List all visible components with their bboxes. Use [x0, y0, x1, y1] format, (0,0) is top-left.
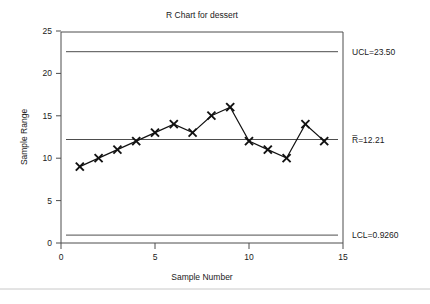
x-tick-label-5: 5: [153, 252, 158, 262]
data-point-9: [226, 103, 234, 111]
x-tick-label-15: 15: [338, 252, 348, 262]
y-axis-ticks: [56, 31, 61, 243]
data-point-4: [132, 137, 140, 145]
lcl-label: LCL=0.9260: [352, 230, 399, 240]
data-point-12: [283, 154, 291, 162]
r-chart-figure: R Chart for dessert 0 5 10 15 20 25: [0, 0, 430, 304]
x-axis-label: Sample Number: [171, 272, 233, 282]
y-axis-label: Sample Range: [19, 109, 29, 166]
plot-frame: [61, 32, 343, 243]
chart-canvas: R Chart for dessert 0 5 10 15 20 25: [0, 0, 430, 304]
control-limit-lines: [66, 52, 338, 235]
center-label: R̅=12.21: [352, 135, 385, 145]
data-point-10: [245, 137, 253, 145]
y-tick-label-10: 10: [43, 153, 53, 163]
y-tick-label-20: 20: [43, 68, 53, 78]
data-point-14: [320, 137, 328, 145]
data-point-6: [170, 120, 178, 128]
data-point-11: [264, 146, 272, 154]
data-point-3: [113, 146, 121, 154]
x-axis-tick-labels: 0 5 10 15: [59, 252, 348, 262]
x-axis-ticks: [61, 243, 343, 249]
x-tick-label-0: 0: [59, 252, 64, 262]
data-point-1: [76, 163, 84, 171]
chart-title: R Chart for dessert: [166, 10, 238, 20]
y-tick-label-15: 15: [43, 111, 53, 121]
data-point-13: [301, 120, 309, 128]
y-tick-label-5: 5: [47, 196, 52, 206]
x-tick-label-10: 10: [244, 252, 254, 262]
y-tick-label-25: 25: [43, 26, 53, 36]
data-point-7: [189, 129, 197, 137]
ucl-label: UCL=23.50: [352, 47, 396, 57]
data-point-markers: [76, 103, 328, 170]
data-point-5: [151, 129, 159, 137]
data-point-2: [95, 154, 103, 162]
y-tick-label-0: 0: [47, 238, 52, 248]
data-point-8: [207, 112, 215, 120]
y-axis-tick-labels: 0 5 10 15 20 25: [43, 26, 53, 248]
